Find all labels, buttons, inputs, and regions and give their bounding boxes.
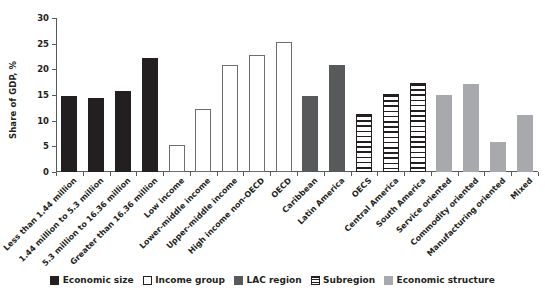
bar-economic-structure [517,115,533,172]
x-axis-label: OECS [350,176,373,199]
legend-swatch-icon [50,276,59,285]
bar-lac-region [329,65,345,172]
legend-item-economic-structure[interactable]: Economic structure [384,275,495,285]
legend-label: LAC region [246,275,301,285]
bar-subregion [356,114,372,172]
chart-legend: Economic sizeIncome groupLAC regionSubre… [0,275,545,285]
legend-label: Income group [155,275,225,285]
bar-chart: Share of GDP, % 051015202530 Less than 1… [0,0,545,291]
bar-series-container [56,18,538,172]
x-tick [538,172,539,176]
legend-item-economic-size[interactable]: Economic size [50,275,133,285]
bar-economic-size [142,58,158,172]
bar-subregion [383,94,399,172]
legend-label: Economic size [63,275,134,285]
bar-lac-region [302,96,318,172]
bar-economic-size [115,91,131,172]
y-tick-label: 10 [37,116,49,126]
bar-income-group [222,65,238,172]
plot-area: 051015202530 [56,18,538,172]
legend-item-lac-region[interactable]: LAC region [234,275,302,285]
y-tick-label: 0 [43,167,49,177]
bar-subregion [410,83,426,172]
bar-income-group [195,109,211,172]
legend-swatch-icon [234,276,243,285]
legend-label: Economic structure [397,275,495,285]
legend-item-income-group[interactable]: Income group [143,275,225,285]
y-tick-label: 20 [37,64,49,74]
bar-economic-structure [490,142,506,172]
bar-income-group [169,145,185,172]
legend-swatch-icon [384,276,393,285]
y-tick-label: 5 [43,141,49,151]
bar-economic-structure [436,95,452,173]
y-tick-label: 30 [37,13,49,23]
x-axis-category-labels: Less than 1.44 million1.44 million to 5.… [56,176,538,254]
bar-economic-structure [463,84,479,172]
x-axis-label: OECD [269,176,293,200]
bar-economic-size [88,98,104,172]
legend-item-subregion[interactable]: Subregion [311,275,376,285]
y-axis-title: Share of GDP, % [6,55,20,145]
y-tick-label: 15 [37,90,49,100]
bar-income-group [249,55,265,172]
x-axis-label: Mixed [509,176,534,201]
legend-label: Subregion [323,275,375,285]
bar-economic-size [61,96,77,172]
y-tick-label: 25 [37,39,49,49]
legend-swatch-icon [143,276,152,285]
legend-swatch-icon [311,276,320,285]
bar-income-group [276,42,292,172]
